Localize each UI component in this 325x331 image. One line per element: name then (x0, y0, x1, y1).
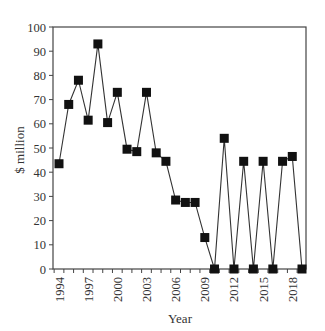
y-tick-label: 50 (34, 142, 47, 156)
y-tick-label: 30 (34, 190, 47, 204)
data-point-marker (171, 196, 180, 205)
y-axis: 0102030405060708090100 (27, 21, 53, 277)
data-point-marker (191, 198, 200, 207)
data-point-marker (93, 39, 102, 48)
data-point-marker (220, 134, 229, 143)
data-point-marker (259, 157, 268, 166)
line-chart: 0102030405060708090100 19941997200020032… (0, 0, 325, 331)
y-tick-label: 70 (34, 93, 47, 107)
data-point-marker (239, 157, 248, 166)
x-tick-label: 2003 (140, 277, 154, 302)
x-tick-label: 2009 (198, 277, 212, 302)
y-tick-label: 40 (34, 166, 47, 180)
y-tick-label: 100 (27, 21, 46, 35)
data-point-marker (229, 265, 238, 274)
y-axis-label: $ million (12, 126, 27, 174)
x-axis-label: Year (168, 311, 193, 326)
data-point-marker (142, 88, 151, 97)
data-point-marker (181, 198, 190, 207)
data-point-marker (210, 265, 219, 274)
y-tick-label: 80 (34, 69, 47, 83)
x-tick-label: 2018 (286, 277, 300, 302)
data-point-marker (298, 265, 307, 274)
data-point-marker (84, 116, 93, 125)
y-tick-label: 60 (34, 117, 47, 131)
data-point-marker (268, 265, 277, 274)
data-point-marker (113, 88, 122, 97)
data-point-marker (161, 157, 170, 166)
x-tick-label: 1997 (82, 277, 96, 302)
x-tick-label: 2012 (227, 277, 241, 302)
data-point-marker (64, 100, 73, 109)
data-point-marker (123, 145, 132, 154)
y-tick-label: 0 (40, 263, 46, 277)
x-tick-label: 1994 (53, 276, 67, 302)
data-point-marker (152, 148, 161, 157)
y-tick-label: 10 (34, 238, 47, 252)
data-point-marker (249, 265, 258, 274)
data-point-marker (103, 118, 112, 127)
x-tick-label: 2015 (257, 277, 271, 302)
plot-area (53, 27, 306, 269)
x-axis: 199419972000200320062009201220152018 (53, 269, 300, 302)
x-tick-label: 2006 (169, 277, 183, 302)
data-point-marker (200, 233, 209, 242)
data-point-marker (55, 159, 64, 168)
x-tick-label: 2000 (111, 277, 125, 302)
y-tick-label: 90 (34, 45, 47, 59)
data-point-marker (74, 76, 83, 85)
y-tick-label: 20 (34, 214, 47, 228)
data-point-marker (278, 157, 287, 166)
data-point-marker (288, 152, 297, 161)
data-point-marker (132, 147, 141, 156)
